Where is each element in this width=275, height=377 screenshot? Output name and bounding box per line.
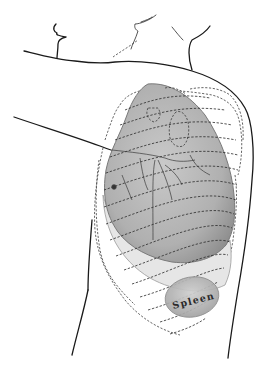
nipple-marker [112, 185, 117, 190]
anatomical-diagram: Spleen [0, 0, 275, 377]
